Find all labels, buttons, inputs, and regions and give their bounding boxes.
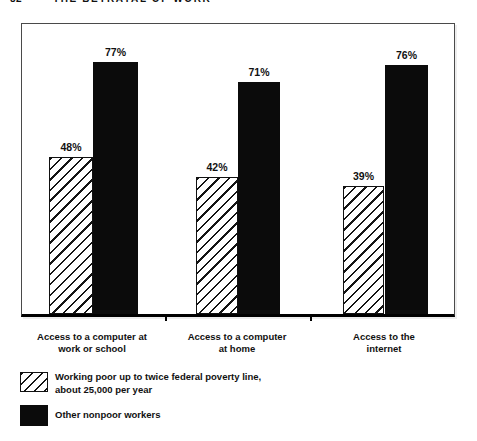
value-label-nonpoor-workers-0: 77%: [105, 46, 126, 58]
bar-working-poor-2: [343, 186, 384, 314]
category-label-0: Access to a computer atwork or school: [12, 331, 172, 355]
legend-item-nonpoor-workers: Other nonpoor workers: [20, 404, 161, 422]
value-label-nonpoor-workers-1: 71%: [248, 66, 269, 78]
chart-plot-area: 48%77%42%71%39%76%: [21, 23, 455, 317]
category-label-1: Access to a computerat home: [157, 331, 317, 355]
legend-label: Working poor up to twice federal poverty…: [55, 371, 261, 396]
value-label-nonpoor-workers-2: 76%: [396, 49, 417, 61]
category-divider-tick-1: [310, 316, 312, 321]
category-label-2: Access to theinternet: [304, 331, 464, 355]
scanned-book-page: 82 THE BETRAYAL OF WORK 48%77%42%71%39%7…: [0, 0, 477, 441]
value-label-working-poor-2: 39%: [353, 170, 374, 182]
running-title: THE BETRAYAL OF WORK: [53, 0, 211, 4]
value-label-working-poor-1: 42%: [206, 161, 227, 173]
category-divider-tick-0: [165, 316, 167, 321]
legend-label: Other nonpoor workers: [55, 409, 161, 422]
legend-swatch-hatched-icon: [20, 372, 48, 392]
legend-swatch-solid-icon: [20, 405, 48, 426]
bar-nonpoor-workers-0: [93, 62, 138, 314]
bar-nonpoor-workers-1: [238, 82, 280, 314]
page-number: 82: [10, 0, 22, 4]
value-label-working-poor-0: 48%: [60, 141, 81, 153]
bar-working-poor-1: [196, 177, 238, 314]
bar-working-poor-0: [49, 157, 93, 314]
running-header: 82 THE BETRAYAL OF WORK: [0, 0, 477, 7]
bar-nonpoor-workers-2: [385, 65, 428, 314]
legend-item-working-poor: Working poor up to twice federal poverty…: [20, 371, 261, 396]
